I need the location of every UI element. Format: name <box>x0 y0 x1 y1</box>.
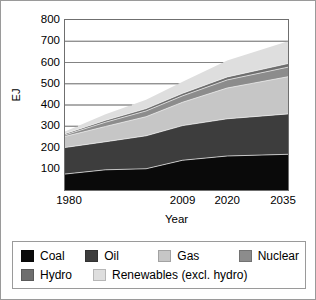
legend-item-renewables-excl-hydro[interactable]: Renewables (excl. hydro) <box>93 265 247 284</box>
y-axis-title: EJ <box>10 86 22 104</box>
legend-item-coal[interactable]: Coal <box>21 246 85 265</box>
x-axis-tick-label: 2009 <box>170 194 196 207</box>
x-axis-tick-label: 2035 <box>270 194 296 207</box>
legend-row: CoalOilGasNuclear <box>21 246 299 265</box>
plot-block: EJ 100200300400500600700800 198020092020… <box>1 1 316 233</box>
y-axis-tick-label: 300 <box>27 120 60 131</box>
legend-label: Renewables (excl. hydro) <box>112 268 247 282</box>
y-axis-tick-label: 500 <box>27 77 60 88</box>
legend-item-hydro[interactable]: Hydro <box>21 265 93 284</box>
legend-swatch-icon <box>239 250 252 262</box>
y-axis-tick-label: 600 <box>27 56 60 67</box>
y-axis-tick-label: 700 <box>27 35 60 46</box>
legend-swatch-icon <box>85 250 98 262</box>
chart-figure: EJ 100200300400500600700800 198020092020… <box>0 0 316 300</box>
legend-swatch-icon <box>21 269 34 281</box>
x-axis-tick-label: 1980 <box>56 194 82 207</box>
y-axis-tick-labels: 100200300400500600700800 <box>27 19 60 191</box>
y-axis-tick-label: 800 <box>27 14 60 25</box>
stacked-area-plot <box>65 20 288 190</box>
legend-swatch-icon <box>158 250 171 262</box>
legend-swatch-icon <box>93 269 106 281</box>
x-axis-tick-label: 2020 <box>214 194 240 207</box>
x-axis-title: Year <box>64 213 289 225</box>
legend-item-oil[interactable]: Oil <box>85 246 158 265</box>
legend-label: Coal <box>40 249 65 263</box>
legend-label: Hydro <box>40 268 72 282</box>
legend-label: Gas <box>177 249 199 263</box>
legend-item-nuclear[interactable]: Nuclear <box>239 246 299 265</box>
y-axis-tick-label: 200 <box>27 141 60 152</box>
plot-area <box>64 19 289 191</box>
y-axis-tick-label: 400 <box>27 99 60 110</box>
legend-label: Oil <box>104 249 119 263</box>
legend-label: Nuclear <box>258 249 299 263</box>
legend-swatch-icon <box>21 250 34 262</box>
legend-row: HydroRenewables (excl. hydro) <box>21 265 299 284</box>
legend-item-gas[interactable]: Gas <box>158 246 238 265</box>
chart-legend: CoalOilGasNuclearHydroRenewables (excl. … <box>12 241 306 289</box>
x-axis-tick-labels: 1980200920202035 <box>1 194 316 210</box>
y-axis-tick-label: 100 <box>27 162 60 173</box>
